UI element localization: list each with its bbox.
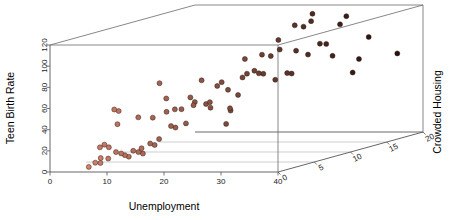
data-point [172, 107, 177, 112]
z-tick-label: 15 [388, 141, 401, 153]
y-tick-label: 40 [40, 125, 49, 134]
data-points [86, 0, 414, 169]
z-axis-title: Crowded Housing [431, 70, 443, 154]
data-point [179, 107, 184, 112]
data-point [224, 121, 229, 126]
data-point [305, 52, 310, 57]
data-point [97, 145, 102, 150]
data-point [207, 100, 212, 105]
data-point [292, 23, 297, 28]
y-tick-label: 80 [40, 82, 49, 91]
z-tick-label: 10 [351, 151, 364, 163]
y-axis-title: Teen Birth Rate [4, 72, 16, 145]
data-point [157, 81, 162, 86]
data-point [395, 51, 400, 56]
x-axis-ticks: 010203040 [48, 172, 283, 186]
data-point [98, 160, 103, 165]
data-point [268, 54, 273, 59]
data-point [215, 83, 220, 88]
top-left-depth-edge [50, 5, 195, 45]
data-point [199, 78, 204, 83]
z-axis-ticks: 05101520 [278, 131, 436, 182]
data-point [338, 22, 343, 27]
data-point [289, 71, 294, 76]
data-point [240, 75, 245, 80]
box-frame [50, 5, 423, 172]
data-point [114, 150, 119, 155]
data-point [106, 145, 111, 150]
x-tick-label: 20 [160, 177, 169, 186]
x-tick-label: 0 [48, 177, 53, 186]
top-right-depth-edge [278, 5, 423, 45]
y-tick-label: 60 [40, 104, 49, 113]
data-point [169, 124, 174, 129]
data-point [244, 71, 249, 76]
data-point [324, 41, 329, 46]
x-tick-label: 30 [217, 177, 226, 186]
data-point [252, 68, 257, 73]
data-point [317, 41, 322, 46]
plot-canvas: 010203040 020406080100120 05101520 Unemp… [0, 0, 452, 220]
data-point [157, 137, 162, 142]
data-point [277, 47, 282, 52]
data-point [226, 87, 231, 92]
y-tick-label: 0 [40, 169, 49, 174]
data-point [102, 142, 107, 147]
data-point [310, 11, 315, 16]
x-tick-label: 10 [103, 177, 112, 186]
data-point [188, 95, 193, 100]
data-point [350, 70, 355, 75]
data-point [150, 115, 155, 120]
x-axis-title: Unemployment [129, 200, 200, 212]
data-point [148, 141, 153, 146]
data-point [236, 92, 241, 97]
data-point [136, 115, 141, 120]
data-point [86, 164, 91, 169]
data-point [294, 48, 299, 53]
data-point [139, 146, 144, 151]
data-point [330, 53, 335, 58]
data-point [285, 71, 290, 76]
data-point [131, 148, 136, 153]
z-tick-label: 5 [317, 163, 326, 173]
data-point [301, 24, 306, 29]
data-point [227, 106, 232, 111]
data-point [261, 71, 266, 76]
data-point [115, 122, 120, 127]
data-point [366, 35, 371, 40]
data-point [93, 160, 98, 165]
floor-gridlines [86, 132, 423, 162]
y-axis-ticks: 020406080100120 [40, 38, 50, 174]
y-tick-label: 20 [40, 146, 49, 155]
data-point [259, 52, 264, 57]
data-point [208, 105, 213, 110]
data-point [356, 57, 361, 62]
data-point [183, 121, 188, 126]
data-point [276, 37, 281, 42]
data-point [344, 14, 349, 19]
data-point [273, 77, 278, 82]
data-point [164, 109, 169, 114]
data-point [256, 71, 261, 76]
data-point [106, 156, 111, 161]
data-point [309, 19, 314, 24]
data-point [98, 156, 103, 161]
y-tick-label: 100 [40, 59, 49, 73]
data-point [219, 80, 224, 85]
data-point [119, 151, 124, 156]
scatter3d-figure: 010203040 020406080100120 05101520 Unemp… [0, 0, 452, 220]
y-tick-label: 120 [40, 38, 49, 52]
data-point [242, 56, 247, 61]
data-point [191, 103, 196, 108]
data-point [164, 96, 169, 101]
data-point [112, 107, 117, 112]
